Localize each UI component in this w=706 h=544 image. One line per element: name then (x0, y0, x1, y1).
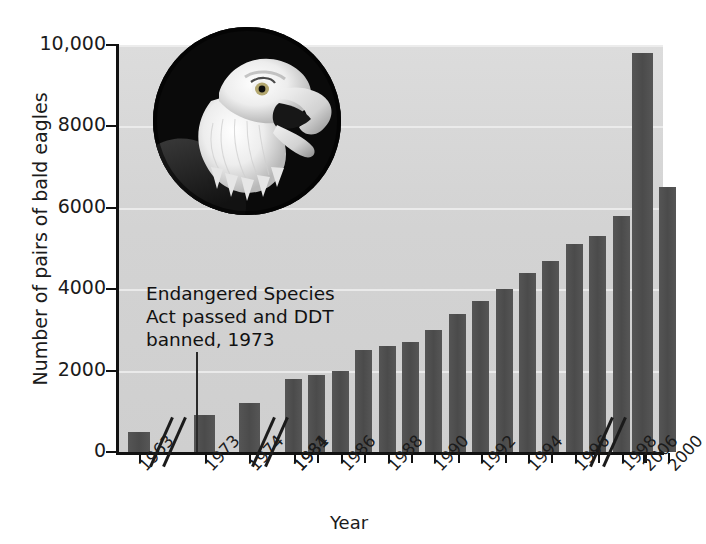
bar-1997 (589, 236, 606, 452)
annotation-leader-line (196, 352, 198, 452)
bar-1993 (496, 289, 513, 452)
y-tick-label-8000: 8000 (6, 113, 106, 135)
bar-2006 (632, 53, 653, 452)
x-axis-title: Year (330, 512, 368, 533)
y-tick-10,000 (106, 44, 117, 46)
y-tick-6000 (106, 207, 117, 209)
bar-1988 (379, 346, 396, 452)
y-tick-label-6000: 6000 (6, 195, 106, 217)
y-tick-0 (106, 451, 117, 453)
y-tick-8000 (106, 125, 117, 127)
y-axis-ticks: 0200040006000800010,000 (0, 0, 106, 544)
bald-eagle-photo (153, 27, 341, 215)
bar-1994 (519, 273, 536, 452)
bar-2000 (659, 187, 676, 452)
bar-1984 (285, 379, 302, 452)
y-axis-line (116, 44, 119, 454)
y-tick-2000 (106, 370, 117, 372)
annotation-line-3: banned, 1973 (146, 328, 376, 351)
y-tick-label-2000: 2000 (6, 358, 106, 380)
annotation-line-2: Act passed and DDT (146, 305, 376, 328)
bar-1995 (542, 261, 559, 452)
bar-1990 (425, 330, 442, 452)
y-tick-label-4000: 4000 (6, 276, 106, 298)
y-tick-label-10,000: 10,000 (6, 32, 106, 54)
annotation-line-1: Endangered Species (146, 282, 376, 305)
annotation-endangered-species-act: Endangered Species Act passed and DDT ba… (146, 282, 376, 351)
bar-1986 (332, 371, 349, 452)
bar-1992 (472, 301, 489, 452)
bar-1996 (566, 244, 583, 452)
bar-1998 (613, 216, 630, 452)
y-axis-title: Number of pairs of bald eagles (29, 29, 51, 449)
y-tick-label-0: 0 (6, 439, 106, 461)
y-tick-4000 (106, 288, 117, 290)
